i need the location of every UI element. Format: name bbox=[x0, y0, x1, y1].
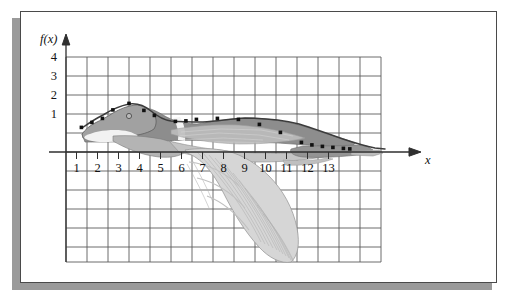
y-axis-title: f(x) bbox=[40, 33, 57, 46]
x-tick-label-4: 4 bbox=[132, 162, 148, 175]
y-axis-arrow bbox=[62, 34, 70, 45]
data-point bbox=[216, 117, 220, 121]
x-tick-label-7: 7 bbox=[195, 162, 211, 175]
data-point bbox=[310, 143, 314, 147]
data-point bbox=[300, 141, 304, 145]
x-tick-label-8: 8 bbox=[216, 162, 232, 175]
figure-card: f(x) x 4 3 2 1 1 2 3 4 5 6 7 8 9 10 11 1… bbox=[20, 11, 497, 283]
data-point bbox=[174, 120, 178, 124]
x-tick-label-3: 3 bbox=[111, 162, 127, 175]
goose-tail-tip bbox=[351, 150, 383, 156]
data-point bbox=[331, 146, 335, 150]
goose-silhouette bbox=[82, 105, 383, 262]
y-tick-label-2: 2 bbox=[43, 89, 57, 102]
data-point bbox=[80, 126, 84, 130]
goose-eye bbox=[126, 113, 131, 118]
x-tick-label-9: 9 bbox=[237, 162, 253, 175]
x-tick-label-5: 5 bbox=[153, 162, 169, 175]
x-tick-label-1: 1 bbox=[69, 162, 85, 175]
data-point bbox=[237, 118, 241, 122]
figure-canvas bbox=[21, 12, 498, 284]
x-tick-label-2: 2 bbox=[90, 162, 106, 175]
x-tick-label-6: 6 bbox=[174, 162, 190, 175]
x-axis-title: x bbox=[425, 154, 431, 167]
x-tick-label-10: 10 bbox=[258, 162, 274, 175]
data-point bbox=[348, 147, 352, 151]
data-point bbox=[127, 102, 131, 106]
y-tick-label-4: 4 bbox=[43, 51, 57, 64]
data-point bbox=[342, 147, 346, 151]
data-point bbox=[101, 117, 105, 121]
data-point bbox=[142, 109, 146, 113]
data-point bbox=[195, 118, 199, 122]
x-tick-label-12: 12 bbox=[300, 162, 316, 175]
x-axis-arrow bbox=[409, 148, 421, 156]
data-point bbox=[111, 108, 115, 112]
data-point bbox=[321, 145, 325, 149]
data-point bbox=[279, 131, 283, 135]
plot-stage: f(x) x 4 3 2 1 1 2 3 4 5 6 7 8 9 10 11 1… bbox=[21, 12, 498, 284]
figure-root: f(x) x 4 3 2 1 1 2 3 4 5 6 7 8 9 10 11 1… bbox=[0, 0, 512, 308]
y-tick-label-3: 3 bbox=[43, 70, 57, 83]
data-point bbox=[184, 119, 188, 123]
data-point bbox=[90, 121, 94, 125]
data-point bbox=[153, 114, 157, 118]
x-tick-label-11: 11 bbox=[279, 162, 295, 175]
x-tick-label-13: 13 bbox=[321, 162, 337, 175]
y-tick-label-1: 1 bbox=[43, 108, 57, 121]
data-point bbox=[258, 123, 262, 127]
